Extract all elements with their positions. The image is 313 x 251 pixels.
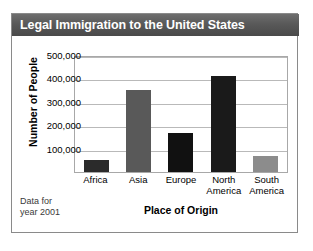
chart-card: Legal Immigration to the United States N… (11, 13, 298, 233)
bar (211, 76, 236, 172)
x-axis-label-line: South (245, 175, 288, 186)
x-axis-label-line: Europe (160, 175, 203, 186)
y-axis-tick-label: 100,000 (21, 144, 81, 155)
x-axis-label: Asia (117, 175, 160, 196)
bar-slot (245, 57, 287, 172)
bar (84, 160, 109, 172)
y-axis-tick-label: 400,000 (21, 73, 81, 84)
x-axis-label: SouthAmerica (245, 175, 288, 196)
bar-slot (202, 57, 244, 172)
bar (253, 156, 278, 172)
bar-slot (117, 57, 159, 172)
x-axis-label-line: North (202, 175, 245, 186)
footnote-line-1: Data for (20, 196, 60, 207)
x-axis-label-line: Asia (117, 175, 160, 186)
chart-title: Legal Immigration to the United States (12, 18, 245, 32)
x-axis-label: NorthAmerica (202, 175, 245, 196)
bar-series (75, 57, 287, 172)
bar (168, 133, 193, 172)
chart-title-bar: Legal Immigration to the United States (12, 14, 299, 36)
plot-area (74, 56, 288, 173)
y-axis-tick-label: 500,000 (21, 50, 81, 61)
x-axis-label-line: Africa (74, 175, 117, 186)
x-axis-label-line: America (202, 186, 245, 197)
x-axis-label: Africa (74, 175, 117, 196)
bar-slot (75, 57, 117, 172)
chart-area: Number of People 100,000200,000300,00040… (12, 36, 299, 233)
chart-footnote: Data for year 2001 (20, 196, 60, 218)
y-axis-tick-label: 200,000 (21, 120, 81, 131)
bar-slot (160, 57, 202, 172)
bar (126, 90, 151, 172)
x-axis-label: Europe (160, 175, 203, 196)
footnote-line-2: year 2001 (20, 207, 60, 218)
y-axis-tick-label: 300,000 (21, 97, 81, 108)
x-axis-title: Place of Origin (74, 204, 288, 216)
x-axis-labels: AfricaAsiaEuropeNorthAmericaSouthAmerica (74, 175, 288, 196)
x-axis-label-line: America (245, 186, 288, 197)
